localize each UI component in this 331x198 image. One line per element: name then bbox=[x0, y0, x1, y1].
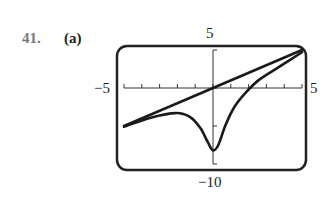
chart-plot bbox=[0, 0, 331, 198]
viewing-window-frame bbox=[117, 46, 306, 170]
axes bbox=[124, 50, 302, 164]
